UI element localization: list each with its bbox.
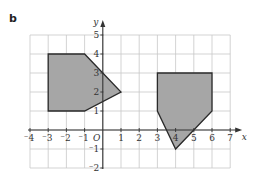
origin-label: O xyxy=(93,133,101,143)
y-axis-arrow-icon xyxy=(100,20,105,27)
shape-B xyxy=(157,73,212,149)
y-axis-label: y xyxy=(92,17,99,27)
x-axis-label: x xyxy=(242,132,247,142)
shapes xyxy=(48,54,212,149)
x-tick-label: 3 xyxy=(155,133,161,143)
x-tick-label: 6 xyxy=(209,133,215,143)
x-tick-label: ⁻1 xyxy=(78,133,88,143)
y-tick-label: 1 xyxy=(94,106,100,116)
x-tick-label: 1 xyxy=(118,133,124,143)
y-tick-label: ⁻2 xyxy=(89,163,99,173)
y-tick-label: 3 xyxy=(94,68,100,78)
y-tick-label: 5 xyxy=(94,30,100,40)
x-tick-label: 7 xyxy=(227,133,233,143)
x-tick-label: 2 xyxy=(136,133,142,143)
x-tick-label: 4 xyxy=(173,133,179,143)
x-tick-label: ⁻2 xyxy=(60,133,70,143)
x-tick-label: 5 xyxy=(191,133,197,143)
y-tick-label: 4 xyxy=(94,49,100,59)
x-tick-label: ⁻4 xyxy=(24,133,35,143)
shape-A xyxy=(48,54,121,111)
y-tick-label: 2 xyxy=(94,87,100,97)
x-tick-label: ⁻3 xyxy=(42,133,53,143)
coordinate-grid-diagram: ⁻4⁻3⁻2⁻11234567⁻2⁻112345Oxy xyxy=(0,0,263,184)
y-tick-label: ⁻1 xyxy=(89,144,99,154)
